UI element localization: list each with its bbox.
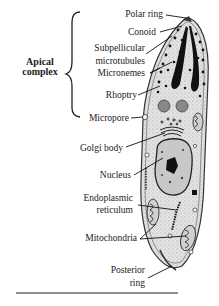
- apical-complex-brace: [66, 12, 80, 117]
- dense-granule-1: [158, 100, 170, 112]
- mitochondrion-top: [193, 113, 203, 131]
- dense-granule-2: [176, 100, 188, 112]
- label-nucleus: Nucleus: [100, 170, 131, 180]
- label-er-2: reticulum: [97, 205, 133, 215]
- apical-label-line2: complex: [12, 67, 68, 77]
- apical-complex-label: Apical complex: [12, 57, 68, 77]
- label-micronemes: Micronemes: [98, 68, 146, 78]
- label-subpellicular-1: Subpellicular: [94, 43, 145, 53]
- label-golgi-body: Golgi body: [80, 143, 123, 153]
- label-posterior-1: Posterior: [111, 265, 145, 275]
- label-micropore: Micropore: [89, 113, 129, 123]
- label-polar-ring: Polar ring: [125, 9, 163, 19]
- label-rhoptry: Rhoptry: [106, 90, 137, 100]
- label-er-1: Endoplasmic: [83, 193, 133, 203]
- micropore: [143, 115, 148, 120]
- nucleus: [155, 139, 192, 195]
- label-conoid: Conoid: [128, 27, 156, 37]
- label-mitochondria: Mitochondria: [85, 233, 137, 243]
- mitochondrion-left: [147, 199, 159, 225]
- dark-granule: [192, 190, 197, 195]
- label-subpellicular-2: microtubules: [95, 56, 145, 66]
- label-posterior-2: ring: [130, 278, 145, 288]
